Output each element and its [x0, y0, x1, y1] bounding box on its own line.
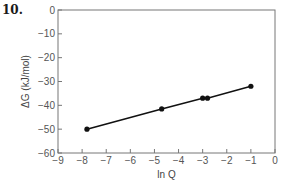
y-tick-label: −30	[38, 76, 55, 87]
y-tick-label: −10	[38, 28, 55, 39]
data-point	[205, 96, 210, 101]
data-point	[200, 96, 205, 101]
data-point	[248, 84, 253, 89]
x-axis-title: ln Q	[157, 169, 176, 180]
y-tick-label: −40	[38, 100, 55, 111]
data-line	[87, 86, 251, 129]
data-point	[159, 106, 164, 111]
x-tick-label: 0	[272, 155, 278, 166]
x-tick-label: −3	[197, 155, 209, 166]
x-tick-label: −6	[125, 155, 137, 166]
x-tick-label: −4	[173, 155, 185, 166]
y-tick-label: −50	[38, 124, 55, 135]
y-tick-label: −20	[38, 52, 55, 63]
data-point	[84, 127, 89, 132]
y-axis-title: ΔG (kJ/mol)	[20, 55, 31, 108]
line-chart: −9−8−7−6−5−4−3−2−100−10−20−30−40−50−60ln…	[0, 0, 283, 182]
x-tick-label: −7	[101, 155, 113, 166]
x-tick-label: −5	[149, 155, 161, 166]
y-tick-label: −60	[38, 148, 55, 159]
x-tick-label: −8	[76, 155, 88, 166]
y-tick-label: 0	[49, 5, 55, 16]
plot-frame	[58, 10, 275, 153]
x-tick-label: −1	[245, 155, 257, 166]
x-tick-label: −2	[221, 155, 233, 166]
